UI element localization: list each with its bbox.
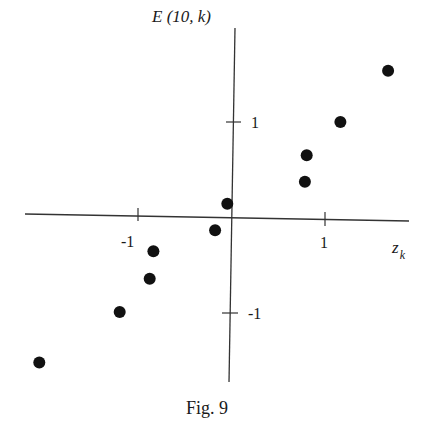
data-point [147,245,159,257]
data-point [221,198,233,210]
data-point [382,65,394,77]
x-axis [25,214,409,221]
data-point [299,176,311,188]
data-points [33,65,394,369]
y-tick-label-1: 1 [251,114,259,131]
data-point [144,273,156,285]
y-axis-label: E (10, k) [151,7,211,26]
x-axis-label: zk [391,238,406,262]
scatter-chart: E (10, k) 1 -1 -1 1 zk Fig. 9 [0,0,434,443]
data-point [114,306,126,318]
data-point [334,116,346,128]
data-point [209,224,221,236]
figure-caption: Fig. 9 [186,398,228,418]
y-tick-label-neg1: -1 [248,305,261,322]
x-tick-label-neg1: -1 [121,233,134,250]
data-point [301,149,313,161]
x-tick-label-1: 1 [320,234,328,251]
data-point [33,356,45,368]
